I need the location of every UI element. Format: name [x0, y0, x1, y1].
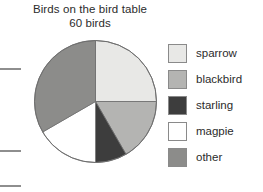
legend-item-blackbird: blackbird — [168, 66, 263, 92]
legend-swatch-magpie — [168, 122, 187, 141]
legend-item-sparrow: sparrow — [168, 40, 263, 66]
chart-subtitle: 60 birds — [14, 16, 166, 30]
legend-swatch-blackbird — [168, 70, 187, 89]
legend-label-magpie: magpie — [196, 125, 234, 138]
chart-title: Birds on the bird table — [14, 2, 166, 16]
legend-label-starling: starling — [196, 99, 233, 112]
legend-item-other: other — [168, 144, 263, 170]
pie-slice-sparrow — [96, 41, 157, 102]
legend-swatch-other — [168, 148, 187, 167]
chart-legend: sparrow blackbird starling magpie other — [168, 40, 263, 170]
pie-chart-svg — [33, 39, 158, 164]
pie-chart — [33, 39, 158, 164]
page-margin-tick-2 — [0, 150, 21, 152]
legend-swatch-sparrow — [168, 44, 187, 63]
legend-label-blackbird: blackbird — [196, 73, 242, 86]
legend-label-sparrow: sparrow — [196, 47, 237, 60]
legend-label-other: other — [196, 151, 222, 164]
page-margin-tick-3 — [0, 185, 21, 187]
legend-item-starling: starling — [168, 92, 263, 118]
page-margin-tick-1 — [0, 68, 21, 70]
chart-title-block: Birds on the bird table 60 birds — [14, 2, 166, 30]
legend-swatch-starling — [168, 96, 187, 115]
legend-item-magpie: magpie — [168, 118, 263, 144]
